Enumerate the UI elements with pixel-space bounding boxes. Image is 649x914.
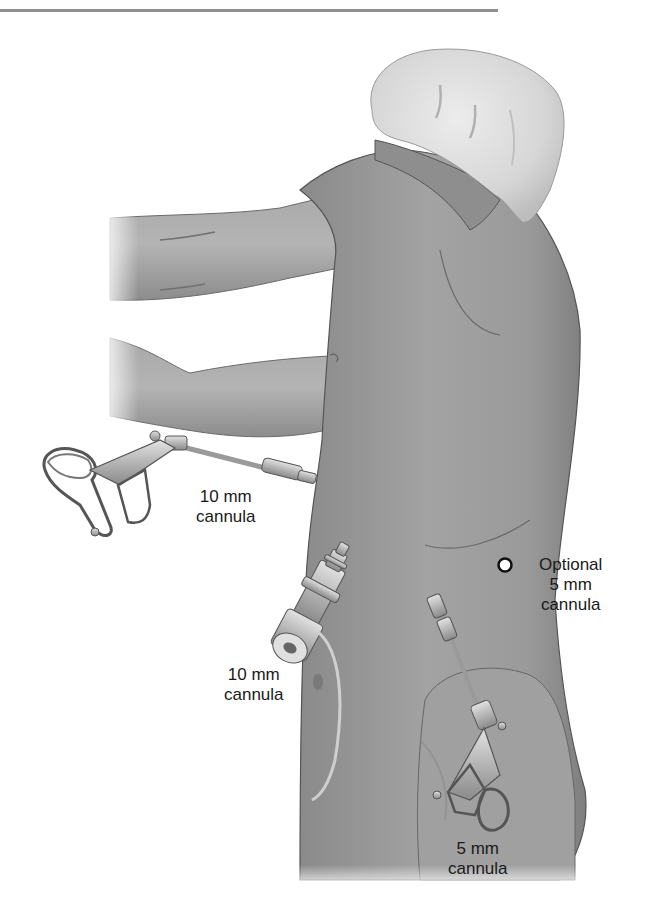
optional-cannula-label: Optional 5 mm cannula xyxy=(539,555,602,615)
optional-cannula-text: cannula xyxy=(539,595,602,615)
upper-cannula-text: cannula xyxy=(196,507,256,527)
lower-cannula-label: 5 mm cannula xyxy=(448,839,508,879)
lower-cannula-text: cannula xyxy=(448,859,508,879)
upper-instrument xyxy=(44,431,317,536)
camera-cannula-label: 10 mm cannula xyxy=(224,665,284,705)
upper-cannula-size: 10 mm xyxy=(196,487,256,507)
illustration xyxy=(0,0,649,914)
camera-cannula-text: cannula xyxy=(224,685,284,705)
camera-cannula-size: 10 mm xyxy=(224,665,284,685)
upper-cannula-label: 10 mm cannula xyxy=(196,487,256,527)
lower-cannula-size: 5 mm xyxy=(448,839,508,859)
optional-cannula-size: 5 mm xyxy=(539,575,602,595)
optional-cannula-qualifier: Optional xyxy=(539,555,602,575)
torso xyxy=(300,150,586,880)
optional-port-marker xyxy=(499,559,512,572)
